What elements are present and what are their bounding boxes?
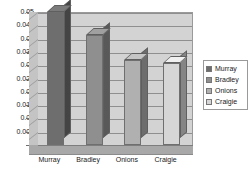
legend-swatch-icon bbox=[206, 99, 212, 105]
depth-gridline bbox=[29, 65, 38, 73]
depth-gridline bbox=[29, 39, 38, 47]
bar-series-group bbox=[38, 12, 193, 145]
depth-gridline bbox=[29, 92, 38, 100]
legend-swatch-icon bbox=[206, 66, 212, 72]
legend-item-label: Bradley bbox=[215, 76, 239, 84]
bar-side-face bbox=[64, 0, 71, 138]
plot-floor bbox=[29, 145, 193, 155]
x-axis: MurrayBradleyOnionsCraigie bbox=[29, 156, 193, 170]
legend-item[interactable]: Craigie bbox=[206, 96, 246, 107]
legend-swatch-icon bbox=[206, 77, 212, 83]
legend-item[interactable]: Onions bbox=[206, 85, 246, 96]
bar-front-face bbox=[47, 12, 64, 145]
legend-item-label: Murray bbox=[215, 65, 237, 73]
depth-gridline bbox=[29, 105, 38, 113]
depth-gridline bbox=[29, 52, 38, 60]
x-axis-tick-label: Craigie bbox=[146, 156, 185, 164]
x-axis-tick-label: Onions bbox=[108, 156, 147, 164]
legend-item-label: Onions bbox=[215, 87, 237, 95]
legend-item[interactable]: Murray bbox=[206, 63, 246, 74]
x-axis-tick-label: Murray bbox=[30, 156, 69, 164]
bar-chart: 0.050.0450.040.0350.030.0250.020.0150.01… bbox=[0, 0, 250, 174]
depth-gridline bbox=[29, 118, 38, 126]
legend-item-label: Craigie bbox=[215, 98, 237, 106]
legend-swatch-icon bbox=[206, 88, 212, 94]
bar-side-face bbox=[141, 48, 148, 138]
bar-side-face bbox=[103, 22, 110, 138]
bar[interactable] bbox=[86, 35, 103, 145]
bar[interactable] bbox=[163, 63, 180, 145]
axis-depth-wall bbox=[29, 12, 38, 145]
x-axis-tick-label: Bradley bbox=[69, 156, 108, 164]
bar-front-face bbox=[124, 60, 141, 145]
bar-side-face bbox=[180, 50, 187, 138]
plot-baseline bbox=[38, 145, 193, 146]
depth-gridline bbox=[29, 132, 38, 140]
depth-gridline bbox=[29, 78, 38, 86]
depth-gridline bbox=[29, 12, 38, 20]
legend-item[interactable]: Bradley bbox=[206, 74, 246, 85]
bar[interactable] bbox=[47, 12, 64, 145]
depth-gridline bbox=[29, 25, 38, 33]
bar-front-face bbox=[163, 63, 180, 145]
bar[interactable] bbox=[124, 60, 141, 145]
legend[interactable]: MurrayBradleyOnionsCraigie bbox=[203, 60, 248, 110]
bar-front-face bbox=[86, 35, 103, 145]
